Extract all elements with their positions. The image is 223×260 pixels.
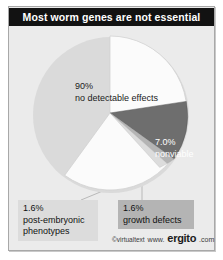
credit-www: www. (148, 236, 165, 243)
callout-percent: 1.6% (123, 203, 190, 215)
pie-label-percent: 7.0% (155, 137, 194, 149)
callout-name-line2: phenotypes (23, 226, 94, 238)
pie-label-percent: 90% (75, 81, 158, 93)
pie-label-name: no detectable effects (75, 93, 158, 105)
credit-tld: .com (199, 236, 214, 243)
pie-label-name: nonviable (155, 149, 194, 161)
figure-title-bar: Most worm genes are not essential (9, 8, 214, 26)
credit-copyright: ©virtualtext (112, 236, 145, 243)
credit-line: ©virtualtext www. ergito .com (112, 232, 214, 244)
pie-label-no-detectable-effects: 90% no detectable effects (75, 81, 158, 104)
callout-name: growth defects (123, 215, 190, 227)
pie-callout-growth-defects: 1.6% growth defects (118, 200, 194, 229)
page-title: Most worm genes are not essential (23, 11, 201, 23)
figure-panel: Most worm genes are not essential 90% no… (0, 0, 223, 260)
pie-callout-post-embryonic-phenotypes: 1.6% post-embryonic phenotypes (18, 200, 98, 241)
pie-label-nonviable: 7.0% nonviable (155, 137, 194, 160)
credit-brand: ergito (167, 232, 196, 244)
callout-percent: 1.6% (23, 203, 94, 215)
callout-name-line1: post-embryonic (23, 215, 94, 227)
